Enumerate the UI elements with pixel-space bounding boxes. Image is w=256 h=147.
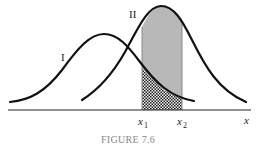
- figure-caption: FIGURE 7.6: [101, 134, 155, 145]
- x-axis-label: x: [243, 114, 249, 126]
- figure-7-6: I II x1 x2 x FIGURE 7.6: [0, 0, 256, 147]
- curve-i-label: I: [61, 51, 65, 63]
- x1-label: x1: [137, 115, 148, 130]
- x2-label: x2: [176, 115, 187, 130]
- curve-ii-label: II: [129, 8, 137, 20]
